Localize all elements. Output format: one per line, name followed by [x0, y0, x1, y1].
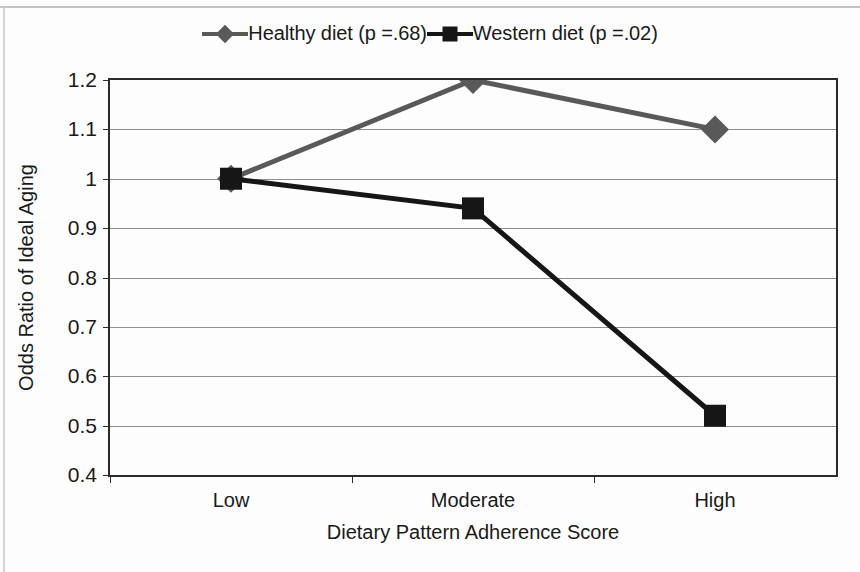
- y-axis-tick: [103, 426, 110, 427]
- y-axis-tick-label: 0.8: [68, 266, 97, 290]
- y-axis-title-text: Odds Ratio of Ideal Aging: [15, 164, 38, 391]
- x-axis-tick: [594, 475, 595, 483]
- y-axis-tick: [103, 129, 110, 130]
- y-axis-title: Odds Ratio of Ideal Aging: [12, 78, 40, 477]
- legend-entry-healthy-diet: Healthy diet (p =.68): [202, 22, 427, 45]
- data-point-marker: [459, 80, 487, 94]
- y-axis-tick-label: 1.2: [68, 68, 97, 92]
- legend-key-square-icon: [427, 24, 473, 44]
- y-axis-tick-label: 1.1: [68, 117, 97, 141]
- scan-edge-top: [0, 6, 860, 8]
- y-axis-tick: [103, 228, 110, 229]
- y-axis-tick: [103, 376, 110, 377]
- x-axis-tick-label: Low: [213, 489, 250, 512]
- data-point-marker: [220, 168, 242, 190]
- square-marker-icon: [442, 26, 457, 41]
- data-point-marker: [704, 405, 726, 427]
- data-point-marker: [462, 197, 484, 219]
- y-axis-tick-label: 0.4: [68, 463, 97, 487]
- legend-label-western-diet: Western diet (p =.02): [473, 22, 658, 45]
- y-axis-tick-label: 0.6: [68, 364, 97, 388]
- x-axis-tick: [110, 475, 111, 483]
- scan-edge-left: [3, 6, 5, 572]
- x-axis-title: Dietary Pattern Adherence Score: [108, 521, 838, 544]
- x-axis-tick-label: High: [694, 489, 735, 512]
- y-axis-tick-label: 0.5: [68, 414, 97, 438]
- y-axis-tick: [103, 278, 110, 279]
- series-line-1: [231, 80, 715, 179]
- data-series-layer: [110, 80, 836, 475]
- y-axis-tick: [103, 475, 110, 476]
- legend-label-healthy-diet: Healthy diet (p =.68): [248, 22, 427, 45]
- y-axis-tick-label: 0.7: [68, 315, 97, 339]
- figure-canvas: Healthy diet (p =.68) Western diet (p =.…: [0, 0, 860, 572]
- y-axis-tick-label: 0.9: [68, 216, 97, 240]
- legend-entry-western-diet: Western diet (p =.02): [427, 22, 658, 45]
- y-axis-tick: [103, 327, 110, 328]
- y-axis-tick-label: 1: [85, 167, 97, 191]
- x-axis-tick-label: Moderate: [431, 489, 516, 512]
- plot-area: 0.40.50.60.70.80.911.11.2 LowModerateHig…: [108, 78, 838, 477]
- x-axis-tick: [352, 475, 353, 483]
- y-axis-tick: [103, 80, 110, 81]
- x-axis-title-text: Dietary Pattern Adherence Score: [327, 521, 619, 543]
- data-point-marker: [701, 115, 729, 143]
- y-axis-tick: [103, 179, 110, 180]
- diamond-marker-icon: [216, 24, 234, 42]
- chart-legend: Healthy diet (p =.68) Western diet (p =.…: [0, 22, 860, 45]
- legend-key-diamond-icon: [202, 24, 248, 44]
